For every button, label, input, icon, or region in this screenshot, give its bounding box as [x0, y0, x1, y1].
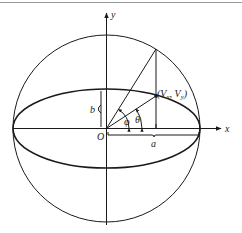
phi-label: φ	[124, 116, 130, 127]
point-label-close: )	[183, 88, 188, 100]
radius-to-ellipse-point-line	[107, 96, 157, 129]
ellipse-circle-diagram: y x O b a φ θ (Vx, Vy)	[0, 0, 242, 233]
semi-major-bracket	[108, 132, 199, 137]
semi-major-label: a	[151, 138, 156, 149]
y-axis-label: y	[110, 9, 116, 20]
theta-label: θ	[135, 114, 140, 125]
ellipse-point-label: (Vx, Vy)	[157, 88, 188, 101]
x-axis-label: x	[224, 123, 230, 134]
semi-minor-label: b	[90, 104, 95, 115]
origin-label: O	[97, 131, 104, 142]
